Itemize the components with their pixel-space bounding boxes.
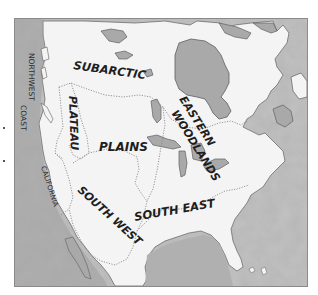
culture-areas-map: SUBARCTIC NORTHWEST COAST PLATEAU PLAINS… [14, 18, 308, 287]
label-northwest-coast-line1: NORTHWEST [27, 53, 36, 101]
margin-mark [3, 127, 5, 129]
map-canvas: SUBARCTIC NORTHWEST COAST PLATEAU PLAINS… [15, 19, 307, 286]
label-northwest-coast-line2: COAST [19, 105, 28, 131]
margin-mark [3, 160, 5, 162]
label-plateau: PLATEAU [66, 96, 81, 151]
label-plains: PLAINS [99, 140, 148, 154]
